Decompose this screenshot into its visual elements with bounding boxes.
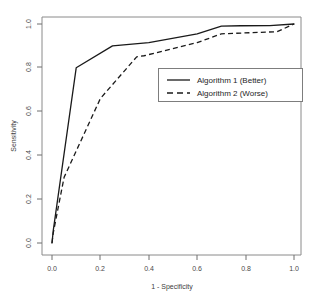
y-tick-label: 0.2 (25, 194, 32, 204)
series-line-algorithm-1 (52, 24, 294, 243)
y-tick-label: 0.0 (25, 238, 32, 248)
roc-curve-plot: 0.0 0.2 0.4 0.6 0.8 1.0 0.0 0.2 0.4 0.6 … (0, 0, 321, 302)
y-tick-label: 0.6 (25, 106, 32, 116)
x-axis-title: 1 - Specificity (151, 283, 193, 291)
x-tick-label: 0.8 (241, 265, 251, 272)
y-tick-label: 0.8 (25, 62, 32, 72)
plot-canvas: 0.0 0.2 0.4 0.6 0.8 1.0 0.0 0.2 0.4 0.6 … (0, 0, 321, 302)
legend-label-algorithm-2: Algorithm 2 (Worse) (197, 89, 268, 98)
y-axis-tick-labels: 0.0 0.2 0.4 0.6 0.8 1.0 (25, 19, 32, 248)
y-tick-label: 1.0 (25, 19, 32, 29)
series-line-algorithm-2 (52, 24, 294, 243)
legend-label-algorithm-1: Algorithm 1 (Better) (197, 76, 267, 85)
x-axis-ticks (52, 255, 294, 260)
x-tick-label: 0.4 (144, 265, 154, 272)
y-tick-label: 0.4 (25, 150, 32, 160)
chart-legend: Algorithm 1 (Better) Algorithm 2 (Worse) (159, 69, 303, 102)
x-tick-label: 0.0 (47, 265, 57, 272)
x-axis-tick-labels: 0.0 0.2 0.4 0.6 0.8 1.0 (47, 265, 299, 272)
plot-frame (42, 17, 301, 255)
x-tick-label: 1.0 (289, 265, 299, 272)
x-tick-label: 0.6 (192, 265, 202, 272)
y-axis-ticks (37, 24, 42, 243)
x-tick-label: 0.2 (95, 265, 105, 272)
y-axis-title: Sensitivity (10, 120, 18, 152)
